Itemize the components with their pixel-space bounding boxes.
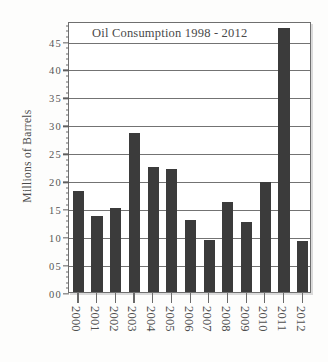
x-tick-label-2000: 2000 xyxy=(68,306,83,332)
y-minor-tick xyxy=(66,109,70,110)
bar-2008 xyxy=(222,202,233,292)
y-minor-tick xyxy=(66,288,70,289)
y-tick-label-45: 45 xyxy=(49,37,62,48)
x-tick-2011 xyxy=(283,293,284,303)
x-tick-2009 xyxy=(246,293,247,303)
y-tick-label-15: 15 xyxy=(49,205,62,216)
x-tick-label-2007: 2007 xyxy=(199,306,214,332)
x-tick-2001 xyxy=(96,293,97,303)
x-tick-2010 xyxy=(264,293,265,303)
bar-series xyxy=(69,23,310,292)
y-tick-45 xyxy=(63,42,69,43)
bar-2009 xyxy=(241,222,252,292)
y-minor-tick xyxy=(66,176,70,177)
y-tick-label-00: 00 xyxy=(49,289,62,300)
y-minor-tick xyxy=(66,232,70,233)
y-minor-tick xyxy=(66,249,70,250)
y-minor-tick xyxy=(66,87,70,88)
x-tick-2006 xyxy=(190,293,191,303)
x-tick-2008 xyxy=(227,293,228,303)
y-tick-label-25: 25 xyxy=(49,149,62,160)
y-tick-label-40: 40 xyxy=(49,65,62,76)
y-minor-tick xyxy=(66,59,70,60)
y-tick-00 xyxy=(63,293,69,294)
bar-2002 xyxy=(110,208,121,292)
x-tick-label-2010: 2010 xyxy=(255,306,270,332)
y-minor-tick xyxy=(66,92,70,93)
y-minor-tick xyxy=(66,215,70,216)
y-minor-tick xyxy=(66,271,70,272)
y-minor-tick xyxy=(66,148,70,149)
bar-2001 xyxy=(91,216,102,292)
y-minor-tick xyxy=(66,104,70,105)
x-tick-label-2012: 2012 xyxy=(293,306,308,332)
y-axis-title: Millions of Barrels xyxy=(21,61,33,251)
y-minor-tick xyxy=(66,120,70,121)
y-minor-tick xyxy=(66,260,70,261)
y-tick-15 xyxy=(63,210,69,211)
bar-2000 xyxy=(73,191,84,292)
x-tick-label-2004: 2004 xyxy=(143,306,158,332)
y-minor-tick xyxy=(66,48,70,49)
y-tick-label-35: 35 xyxy=(49,93,62,104)
bar-2003 xyxy=(129,133,140,292)
bar-2004 xyxy=(148,167,159,292)
y-minor-tick xyxy=(66,115,70,116)
y-minor-tick xyxy=(66,25,70,26)
x-tick-2004 xyxy=(152,293,153,303)
y-minor-tick xyxy=(66,204,70,205)
x-tick-label-2011: 2011 xyxy=(274,306,289,331)
bar-2011 xyxy=(278,28,289,292)
x-tick-label-2009: 2009 xyxy=(237,306,252,332)
y-minor-tick xyxy=(66,36,70,37)
bar-2007 xyxy=(204,240,215,292)
y-minor-tick xyxy=(66,81,70,82)
x-tick-label-2005: 2005 xyxy=(162,306,177,332)
y-minor-tick xyxy=(66,137,70,138)
y-tick-label-10: 10 xyxy=(49,233,62,244)
bar-2010 xyxy=(260,182,271,292)
y-minor-tick xyxy=(66,221,70,222)
y-minor-tick xyxy=(66,143,70,144)
x-tick-label-2003: 2003 xyxy=(124,306,139,332)
x-tick-2000 xyxy=(77,293,78,303)
x-tick-label-2002: 2002 xyxy=(106,306,121,332)
y-tick-10 xyxy=(63,237,69,238)
y-minor-tick xyxy=(66,226,70,227)
y-minor-tick xyxy=(66,53,70,54)
y-minor-tick xyxy=(66,131,70,132)
y-tick-30 xyxy=(63,126,69,127)
bar-2006 xyxy=(185,220,196,292)
y-minor-tick xyxy=(66,76,70,77)
x-tick-2005 xyxy=(171,293,172,303)
y-minor-tick xyxy=(66,243,70,244)
plot-inner xyxy=(69,23,310,292)
y-tick-label-20: 20 xyxy=(49,177,62,188)
y-tick-25 xyxy=(63,154,69,155)
x-tick-label-2008: 2008 xyxy=(218,306,233,332)
y-minor-tick xyxy=(66,64,70,65)
chart-screenshot: Millions of Barrels 00051015202530354045… xyxy=(0,0,328,362)
y-minor-tick xyxy=(66,159,70,160)
y-minor-tick xyxy=(66,199,70,200)
x-tick-label-2006: 2006 xyxy=(181,306,196,332)
x-tick-2012 xyxy=(302,293,303,303)
x-tick-2003 xyxy=(133,293,134,303)
bar-2005 xyxy=(166,169,177,292)
y-minor-tick xyxy=(66,31,70,32)
y-minor-tick xyxy=(66,254,70,255)
y-tick-20 xyxy=(63,182,69,183)
x-tick-label-2001: 2001 xyxy=(87,306,102,332)
y-minor-tick xyxy=(66,165,70,166)
y-minor-tick xyxy=(66,187,70,188)
y-minor-tick xyxy=(66,277,70,278)
y-minor-tick xyxy=(66,171,70,172)
bar-2012 xyxy=(297,241,308,292)
y-minor-tick xyxy=(66,282,70,283)
y-tick-label-30: 30 xyxy=(49,121,62,132)
x-tick-2002 xyxy=(115,293,116,303)
y-tick-35 xyxy=(63,98,69,99)
chart-title: Oil Consumption 1998 - 2012 xyxy=(92,26,247,41)
y-tick-40 xyxy=(63,70,69,71)
y-tick-label-05: 05 xyxy=(49,261,62,272)
